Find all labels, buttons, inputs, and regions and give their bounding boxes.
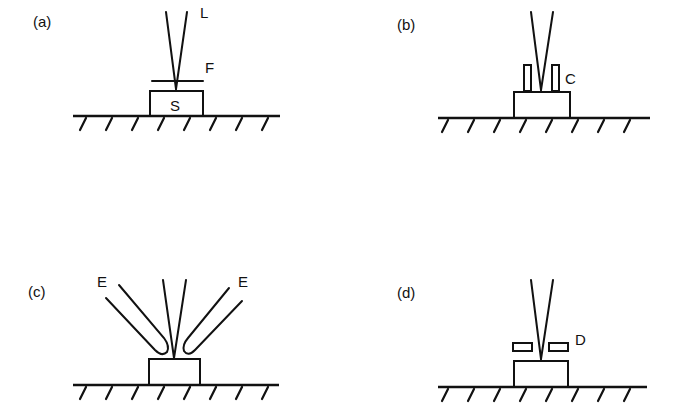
electrode-left-label: E <box>97 273 107 290</box>
filter-label: F <box>205 59 214 76</box>
sample-label: S <box>170 97 180 114</box>
electrode-left <box>106 285 168 354</box>
panel-a: (a) L F S <box>33 4 280 130</box>
laser-label: L <box>200 4 208 21</box>
panel-d-label: (d) <box>397 284 415 301</box>
collector-left <box>524 65 531 91</box>
ground-surface <box>73 385 279 399</box>
deflector-right <box>549 343 568 351</box>
deflector-left <box>513 343 532 351</box>
panel-a-label: (a) <box>33 13 51 30</box>
sample-block <box>514 361 568 387</box>
sample-block <box>514 92 570 118</box>
ground-surface <box>438 118 650 132</box>
collector-label: C <box>565 70 576 87</box>
laser-beam <box>166 12 187 89</box>
panel-b-label: (b) <box>397 16 415 33</box>
deflector-label: D <box>575 331 586 348</box>
laser-beam <box>531 12 553 90</box>
panel-b: (b) C <box>397 12 650 132</box>
laser-beam <box>163 280 186 358</box>
panel-c-label: (c) <box>28 283 46 300</box>
sample-block <box>149 359 200 385</box>
panel-d: (d) D <box>397 280 647 401</box>
electrode-right <box>184 288 243 354</box>
panel-c: (c) E E <box>28 273 279 399</box>
ground-surface <box>438 387 647 401</box>
electrode-right-label: E <box>238 273 248 290</box>
ground-surface <box>73 116 280 130</box>
collector-right <box>552 65 559 91</box>
laser-ablation-setup-figure: (a) L F S (b) <box>0 0 675 415</box>
